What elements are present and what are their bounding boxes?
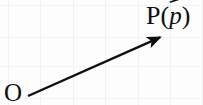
- position-vector-arrow: [28, 37, 160, 96]
- vector-symbol-base: p: [169, 2, 182, 29]
- point-label-suffix: ): [182, 1, 191, 30]
- vector-accent-arrow-icon: [170, 0, 185, 5]
- point-label: P(p ): [146, 3, 190, 29]
- origin-label: O: [4, 80, 22, 105]
- point-label-prefix: P(: [146, 1, 169, 30]
- vector-diagram-figure: O P(p ): [0, 0, 203, 105]
- vector-symbol-group: p: [169, 3, 182, 28]
- origin-label-text: O: [4, 79, 22, 105]
